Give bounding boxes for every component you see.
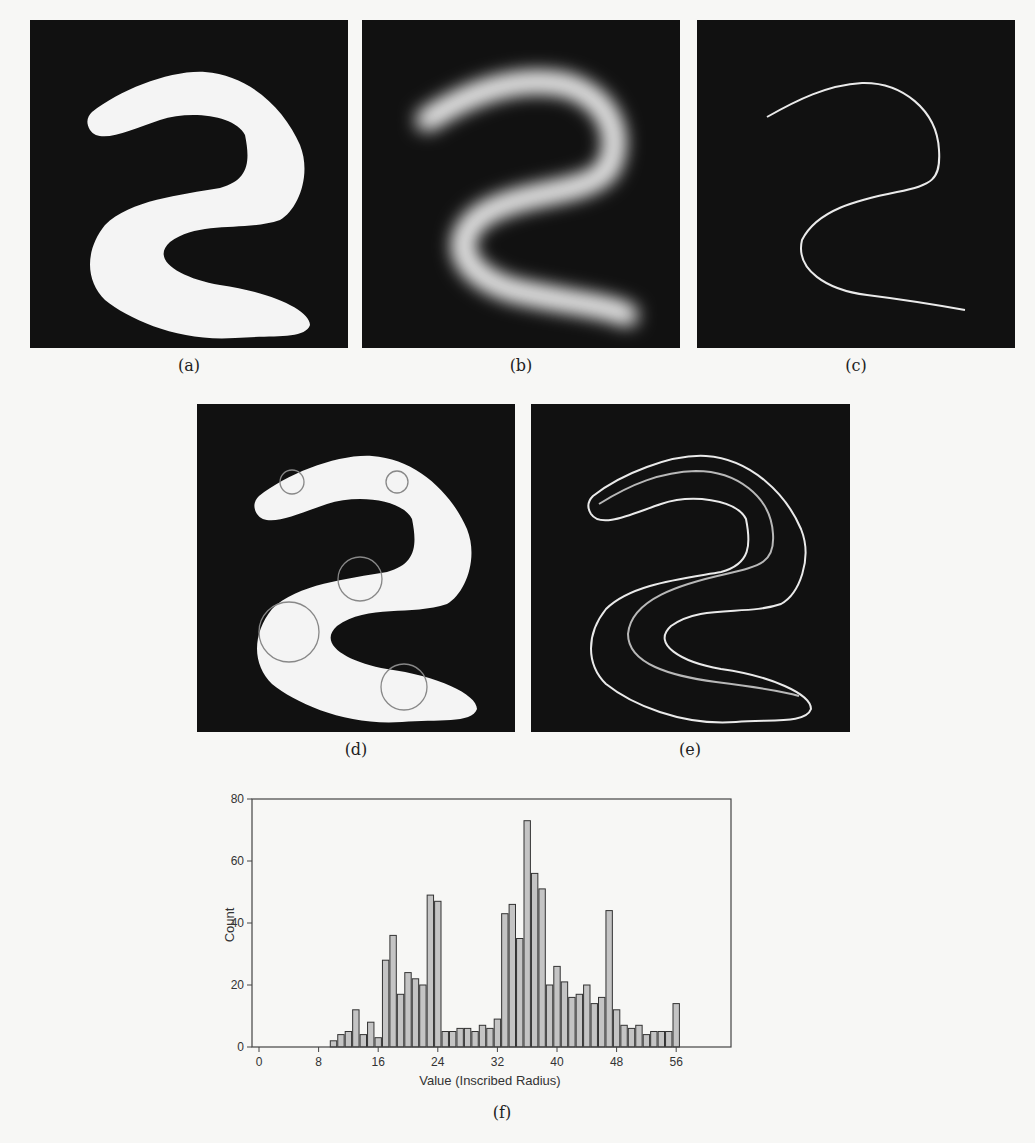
histogram-bar — [442, 1032, 448, 1048]
histogram-bar — [621, 1025, 627, 1047]
y-tick-label: 60 — [231, 854, 245, 868]
x-tick-label: 24 — [431, 1055, 445, 1069]
histogram-bar — [561, 982, 567, 1047]
histogram-svg: 02040608008162432404856 Value (Inscribed… — [200, 785, 840, 1105]
histogram-bar — [531, 873, 537, 1047]
histogram-bar — [435, 901, 441, 1047]
caption-b: (b) — [491, 356, 551, 375]
histogram-bar — [643, 1035, 649, 1047]
caption-e: (e) — [660, 740, 720, 759]
histogram-bar — [345, 1032, 351, 1048]
skeleton-image — [697, 20, 1015, 348]
histogram-bar — [427, 895, 433, 1047]
histogram-bar — [353, 1010, 359, 1047]
histogram-bar — [546, 985, 552, 1047]
histogram-bar — [487, 1028, 493, 1047]
outline-medial-image — [531, 404, 850, 732]
panel-e-outline-medial — [531, 404, 850, 732]
histogram-bar — [673, 1004, 679, 1047]
panel-b-distance-map — [362, 20, 680, 348]
histogram-bars — [330, 821, 679, 1047]
histogram-bar — [420, 985, 426, 1047]
panel-d-inscribed-circles — [197, 404, 515, 732]
histogram-bar — [390, 935, 396, 1047]
histogram-bar — [405, 973, 411, 1047]
histogram-bar — [554, 966, 560, 1047]
histogram-bar — [450, 1032, 456, 1048]
histogram-bar — [502, 914, 508, 1047]
caption-a: (a) — [159, 356, 219, 375]
x-tick-label: 0 — [256, 1055, 263, 1069]
histogram-bar — [464, 1028, 470, 1047]
histogram-bar — [382, 960, 388, 1047]
panel-a-binary-shape — [30, 20, 348, 348]
histogram-bar — [375, 1038, 381, 1047]
histogram-bar — [397, 994, 403, 1047]
histogram-bar — [599, 997, 605, 1047]
x-tick-label: 8 — [315, 1055, 322, 1069]
histogram-bar — [569, 997, 575, 1047]
histogram-bar — [479, 1025, 485, 1047]
panel-c-skeleton — [697, 20, 1015, 348]
histogram-bar — [368, 1022, 374, 1047]
x-axis-label: Value (Inscribed Radius) — [419, 1073, 560, 1088]
y-tick-label: 0 — [237, 1040, 244, 1054]
y-axis-label: Count — [222, 907, 237, 942]
x-tick-label: 40 — [550, 1055, 564, 1069]
caption-f: (f) — [472, 1103, 532, 1122]
histogram-bar — [584, 985, 590, 1047]
caption-d: (d) — [326, 740, 386, 759]
histogram-bar — [539, 889, 545, 1047]
histogram-bar — [524, 821, 530, 1047]
histogram-bar — [636, 1025, 642, 1047]
distance-map-image — [362, 20, 680, 348]
histogram-bar — [606, 911, 612, 1047]
binary-shape-image — [30, 20, 348, 348]
x-tick-label: 48 — [610, 1055, 624, 1069]
histogram-bar — [472, 1032, 478, 1048]
histogram-bar — [591, 1004, 597, 1047]
caption-c: (c) — [826, 356, 886, 375]
histogram-bar — [457, 1028, 463, 1047]
histogram-bar — [330, 1041, 336, 1047]
x-tick-label: 16 — [372, 1055, 386, 1069]
histogram-bar — [412, 979, 418, 1047]
x-tick-label: 56 — [670, 1055, 684, 1069]
histogram-bar — [360, 1035, 366, 1047]
histogram-bar — [658, 1032, 664, 1048]
histogram-bar — [628, 1028, 634, 1047]
histogram-bar — [613, 1010, 619, 1047]
x-tick-label: 32 — [491, 1055, 505, 1069]
histogram-bar — [666, 1032, 672, 1048]
histogram-chart: 02040608008162432404856 Value (Inscribed… — [200, 785, 840, 1105]
histogram-bar — [494, 1019, 500, 1047]
histogram-bar — [517, 939, 523, 1048]
y-tick-label: 20 — [231, 978, 245, 992]
histogram-bar — [576, 994, 582, 1047]
histogram-bar — [509, 904, 515, 1047]
inscribed-circles-image — [197, 404, 515, 732]
y-tick-label: 80 — [231, 792, 245, 806]
histogram-bar — [651, 1032, 657, 1048]
histogram-bar — [338, 1035, 344, 1047]
